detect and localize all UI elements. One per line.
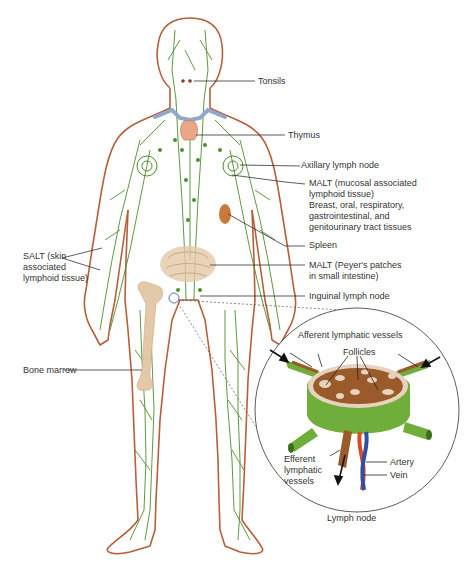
- label-axillary-lymph-node: Axillary lymph node: [301, 160, 379, 171]
- label-efferent-vessels: Efferent lymphatic vessels: [284, 454, 322, 487]
- small-intestine: [160, 246, 216, 282]
- malt-peyers-line-2: in small intestine): [309, 271, 401, 282]
- malt-mucosal-line-2: lymphoid tissue): [309, 189, 417, 200]
- label-afferent-vessels: Afferent lymphatic vessels: [298, 330, 402, 341]
- label-spleen: Spleen: [309, 240, 337, 251]
- label-salt: SALT (skin associated lymphoid tissue): [23, 251, 88, 284]
- label-thymus: Thymus: [288, 130, 320, 141]
- malt-peyers-line-1: MALT (Peyer's patches: [309, 260, 401, 271]
- tonsils: [181, 79, 192, 83]
- label-tonsils: Tonsils: [258, 76, 286, 87]
- lymph-vessels: [100, 30, 280, 540]
- label-inguinal-lymph-node: Inguinal lymph node: [309, 291, 390, 302]
- salt-line-3: lymphoid tissue): [23, 273, 88, 284]
- body-outline: [84, 18, 295, 554]
- malt-mucosal-line-3: Breast, oral, respiratory,: [309, 200, 417, 211]
- label-lymph-node-title: Lymph node: [327, 513, 376, 524]
- lymphatic-system-illustration: [0, 0, 472, 578]
- malt-mucosal-line-5: genitourinary tract tissues: [309, 222, 417, 233]
- thymus: [180, 121, 197, 141]
- label-artery: Artery: [390, 457, 414, 468]
- spleen: [219, 204, 231, 224]
- efferent-line-2: lymphatic: [284, 465, 322, 476]
- inguinal-node-marker: [169, 293, 179, 303]
- malt-mucosal-line-4: gastrointestinal, and: [309, 211, 417, 222]
- label-malt-peyers: MALT (Peyer's patches in small intestine…: [309, 260, 401, 282]
- salt-line-1: SALT (skin: [23, 251, 88, 262]
- efferent-line-1: Efferent: [284, 454, 322, 465]
- subclavian-vessels: [155, 110, 225, 120]
- efferent-line-3: vessels: [284, 476, 322, 487]
- label-malt-mucosal: MALT (mucosal associated lymphoid tissue…: [309, 178, 417, 233]
- label-follicles: Follicles: [343, 347, 376, 358]
- malt-mucosal-line-1: MALT (mucosal associated: [309, 178, 417, 189]
- label-bone-marrow: Bone marrow: [23, 365, 77, 376]
- label-vein: Vein: [390, 470, 408, 481]
- salt-line-2: associated: [23, 262, 88, 273]
